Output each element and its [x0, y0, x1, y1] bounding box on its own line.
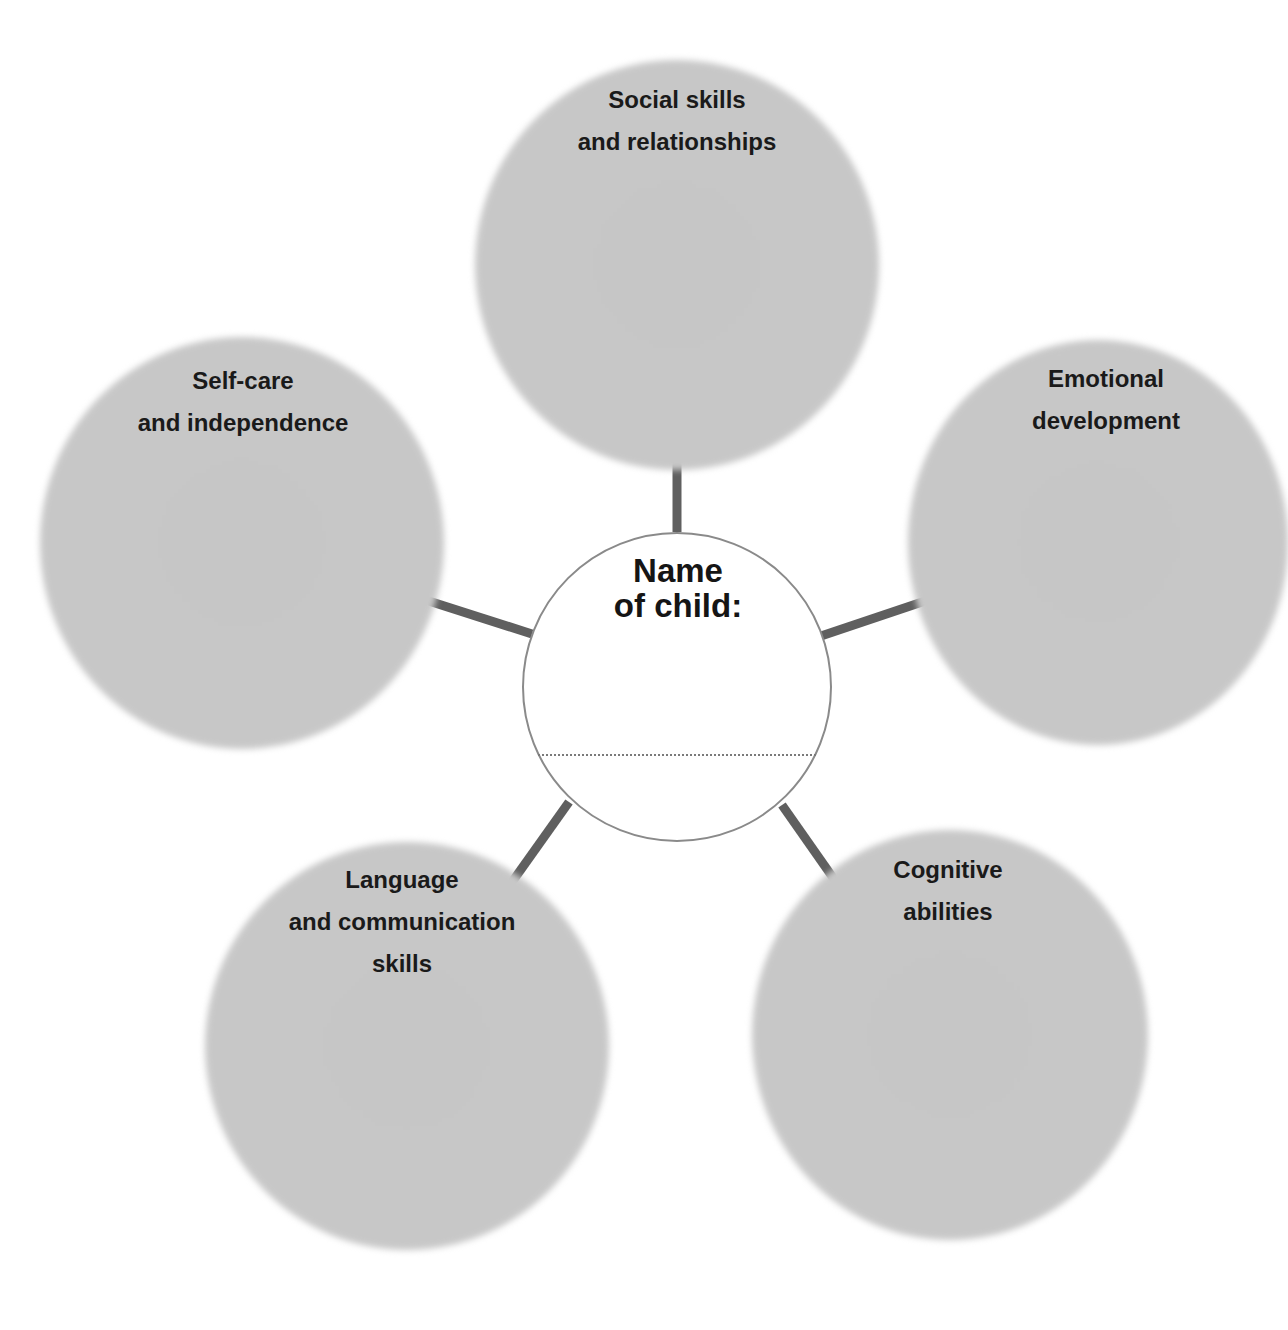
- label-line: Cognitive: [893, 849, 1002, 891]
- label-line: and independence: [138, 402, 349, 444]
- label-line: Self-care: [138, 360, 349, 402]
- center-title: Name of child:: [614, 553, 742, 623]
- label-line: and relationships: [578, 121, 777, 163]
- center-title-line: Name: [614, 553, 742, 588]
- center-title-line: of child:: [614, 588, 742, 623]
- label-social-skills: Social skills and relationships: [578, 79, 777, 163]
- label-line: development: [1032, 400, 1180, 442]
- label-line: Social skills: [578, 79, 777, 121]
- label-line: skills: [289, 943, 516, 985]
- label-language-communication: Language and communication skills: [289, 859, 516, 985]
- label-emotional-development: Emotional development: [1032, 358, 1180, 442]
- child-name-field[interactable]: [545, 640, 811, 752]
- label-cognitive-abilities: Cognitive abilities: [893, 849, 1002, 933]
- label-line: Language: [289, 859, 516, 901]
- label-self-care: Self-care and independence: [138, 360, 349, 444]
- label-line: and communication: [289, 901, 516, 943]
- name-writing-line: [538, 754, 816, 756]
- label-line: Emotional: [1032, 358, 1180, 400]
- label-line: abilities: [893, 891, 1002, 933]
